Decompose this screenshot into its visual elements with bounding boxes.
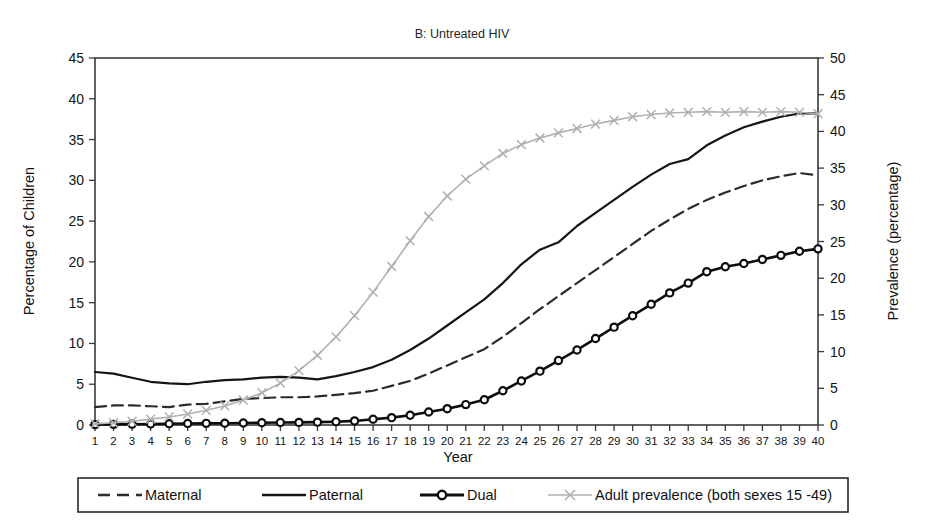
data-point-marker [314, 419, 321, 426]
y-axis-right-tick-label: 5 [830, 380, 838, 396]
x-axis-tick-label: 7 [203, 435, 209, 447]
data-point-marker [703, 268, 710, 275]
y-axis-left-tick-label: 30 [68, 172, 84, 188]
data-point-marker [740, 260, 747, 267]
x-axis-tick-label: 29 [608, 435, 621, 447]
x-axis-tick-label: 15 [348, 435, 361, 447]
x-axis-tick-label: 8 [222, 435, 228, 447]
data-point-marker [648, 301, 655, 308]
y-axis-right-tick-label: 50 [830, 50, 846, 66]
x-axis-tick-label: 12 [293, 435, 306, 447]
data-point-marker [351, 417, 358, 424]
x-axis-tick-label: 22 [478, 435, 491, 447]
y-axis-right-tick-label: 40 [830, 123, 846, 139]
data-point-marker [407, 412, 414, 419]
legend-label-adult-prevalence: Adult prevalence (both sexes 15 -49) [595, 487, 832, 503]
y-axis-right-tick-label: 15 [830, 307, 846, 323]
x-axis-tick-label: 10 [255, 435, 268, 447]
x-axis-tick-label: 5 [166, 435, 172, 447]
y-axis-right-tick-label: 20 [830, 270, 846, 286]
data-point-marker [518, 377, 525, 384]
y-axis-left-title: Percentage of Children [21, 167, 37, 315]
data-point-marker [332, 418, 339, 425]
x-axis-tick-label: 30 [626, 435, 639, 447]
x-axis-tick-label: 39 [793, 435, 806, 447]
x-axis-tick-label: 13 [311, 435, 324, 447]
y-axis-left-tick-label: 35 [68, 132, 84, 148]
x-axis-tick-label: 34 [700, 435, 713, 447]
x-axis-tick-label: 33 [682, 435, 695, 447]
chart-canvas: B: Untreated HIV 051015202530354045 0510… [0, 0, 925, 530]
x-axis-tick-label: 36 [737, 435, 750, 447]
legend-label-maternal: Maternal [145, 487, 201, 503]
y-axis-left-tick-label: 25 [68, 213, 84, 229]
x-axis-tick-label: 28 [589, 435, 602, 447]
x-axis-tick-label: 14 [330, 435, 343, 447]
x-axis-tick-label: 16 [367, 435, 380, 447]
y-axis-right-title: Prevalence (percentage) [885, 162, 901, 321]
y-axis-left-tick-label: 0 [76, 417, 84, 433]
y-axis-right-tick-label: 35 [830, 160, 846, 176]
data-point-marker [536, 368, 543, 375]
data-point-marker [295, 419, 302, 426]
y-axis-left-tick-label: 5 [76, 376, 84, 392]
data-point-marker [722, 263, 729, 270]
x-axis-tick-label: 26 [552, 435, 565, 447]
x-axis-tick-label: 37 [756, 435, 769, 447]
x-axis-tick-label: 18 [404, 435, 417, 447]
x-axis-tick-label: 17 [385, 435, 398, 447]
data-point-marker [777, 252, 784, 259]
x-axis-tick-label: 31 [645, 435, 658, 447]
data-point-marker [166, 420, 173, 427]
chart-figure: B: Untreated HIV 051015202530354045 0510… [0, 0, 925, 530]
data-point-marker [481, 396, 488, 403]
data-point-marker [425, 408, 432, 415]
chart-legend: MaternalPaternalDualAdult prevalence (bo… [78, 478, 848, 512]
data-point-marker [573, 346, 580, 353]
data-point-marker [555, 357, 562, 364]
data-point-marker [462, 401, 469, 408]
y-axis-right-tick-label: 30 [830, 197, 846, 213]
x-axis-tick-label: 20 [441, 435, 454, 447]
data-point-marker [685, 279, 692, 286]
data-point-marker [814, 245, 821, 252]
data-point-marker [388, 414, 395, 421]
y-axis-left-tick-label: 10 [68, 335, 84, 351]
y-axis-right-tick-label: 25 [830, 234, 846, 250]
x-axis-tick-label: 6 [184, 435, 190, 447]
legend-label-paternal: Paternal [309, 487, 363, 503]
y-axis-right-tick-label: 0 [830, 417, 838, 433]
data-point-marker [610, 324, 617, 331]
data-point-marker [203, 420, 210, 427]
x-axis-tick-label: 9 [240, 435, 246, 447]
y-axis-left-tick-label: 20 [68, 254, 84, 270]
x-axis-tick-label: 3 [129, 435, 135, 447]
x-axis-tick-label: 23 [496, 435, 509, 447]
data-point-marker [444, 405, 451, 412]
x-axis-tick-label: 32 [663, 435, 676, 447]
y-axis-right-tick-label: 10 [830, 344, 846, 360]
y-axis-left-tick-label: 40 [68, 91, 84, 107]
data-point-marker [184, 420, 191, 427]
y-axis-right-tick-label: 45 [830, 87, 846, 103]
y-axis-left-tick-label: 15 [68, 295, 84, 311]
x-axis-title: Year [443, 449, 472, 465]
legend-marker-circle-icon [438, 491, 446, 499]
x-axis-tick-label: 35 [719, 435, 732, 447]
data-point-marker [499, 387, 506, 394]
x-axis-tick-label: 40 [812, 435, 825, 447]
x-axis-tick-label: 11 [274, 435, 286, 447]
x-axis-tick-label: 24 [515, 435, 528, 447]
x-axis-tick-label: 27 [571, 435, 584, 447]
chart-title: B: Untreated HIV [415, 27, 510, 41]
data-point-marker [240, 419, 247, 426]
data-point-marker [759, 256, 766, 263]
legend-label-dual: Dual [467, 487, 497, 503]
x-axis-tick-label: 1 [92, 435, 98, 447]
data-point-marker [629, 312, 636, 319]
data-point-marker [369, 416, 376, 423]
x-axis-tick-label: 21 [459, 435, 472, 447]
data-point-marker [258, 419, 265, 426]
data-point-marker [666, 289, 673, 296]
data-point-marker [796, 248, 803, 255]
